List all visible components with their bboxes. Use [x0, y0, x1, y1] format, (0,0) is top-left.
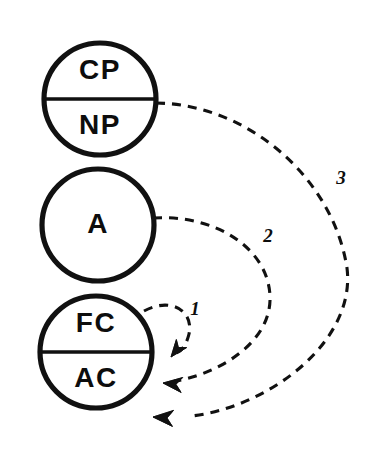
parent-circle[interactable]: CP NP [44, 43, 156, 155]
transaction-1-label: 1 [190, 298, 200, 319]
transaction-vectors: 1 2 3 [144, 103, 348, 426]
arrowheads-overlay [152, 340, 186, 427]
ego-state-diagram: 1 2 3 CP NP [0, 0, 367, 453]
ego-state-circles: CP NP A FC AC [40, 43, 156, 408]
transaction-2[interactable]: 2 [153, 218, 273, 393]
parent-circle-top-label: CP [79, 54, 121, 85]
child-circle-bottom-label: AC [74, 362, 117, 393]
transaction-3-arrowhead-overlay [152, 409, 173, 426]
adult-circle-label: A [87, 208, 109, 239]
transaction-3-label: 3 [335, 167, 346, 188]
child-circle[interactable]: FC AC [40, 296, 152, 408]
adult-circle[interactable]: A [42, 169, 154, 281]
transaction-2-arrowhead-overlay [162, 376, 182, 393]
transaction-3-curve [156, 103, 348, 416]
diagram-canvas: 1 2 3 CP NP [0, 0, 367, 453]
parent-circle-bottom-label: NP [79, 109, 121, 140]
child-circle-top-label: FC [76, 307, 116, 338]
transaction-2-label: 2 [262, 225, 273, 246]
transaction-1-arrowhead-overlay [166, 340, 187, 361]
